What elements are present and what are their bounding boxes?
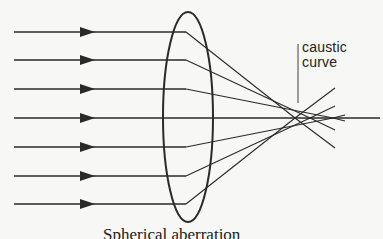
arrow-icon [80, 171, 95, 181]
arrow-icon [80, 55, 95, 65]
refracted-ray-3 [186, 89, 345, 121]
arrow-icon [80, 113, 95, 123]
arrow-icon [80, 199, 95, 209]
refracted-ray-2 [186, 60, 335, 130]
arrow-icon [80, 84, 95, 94]
label-line-2: curve [302, 55, 347, 70]
refracted-ray-5 [186, 115, 345, 147]
refracted-ray-6 [186, 106, 335, 176]
refracted-ray-7 [186, 88, 335, 204]
figure-caption: Spherical aberration [103, 225, 240, 239]
spherical-aberration-diagram [0, 0, 383, 239]
arrow-icon [80, 27, 95, 37]
label-line-1: caustic [302, 40, 347, 55]
caustic-curve-label: caustic curve [302, 40, 347, 70]
lens [163, 12, 213, 222]
arrowheads [80, 27, 95, 209]
arrow-icon [80, 142, 95, 152]
